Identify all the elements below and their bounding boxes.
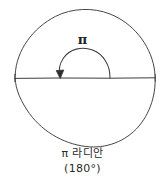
- arc-angle-label: π: [0, 32, 165, 47]
- figure-caption: π 라디안 (180°): [0, 148, 165, 174]
- caption-degree-text: (180°): [0, 163, 165, 174]
- angle-sweep-arc: [59, 48, 110, 78]
- arrow-head-icon: [56, 70, 64, 79]
- caption-radian-text: π 라디안: [0, 148, 165, 159]
- radian-diagram: π π 라디안 (180°): [0, 0, 165, 189]
- diameter-line: [15, 78, 156, 79]
